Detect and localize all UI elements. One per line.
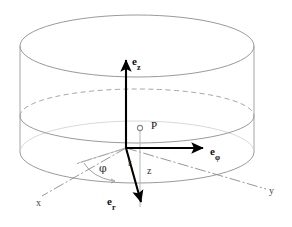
x-axis-line: [42, 148, 126, 196]
coordinate-axes: [42, 148, 266, 196]
y-axis-label: y: [269, 186, 274, 196]
e-z-label: ez: [132, 56, 140, 70]
figure-canvas: ez eφ er P r z φ x y: [0, 0, 292, 227]
point-p-marker: [137, 125, 142, 130]
e-phi-label: eφ: [210, 146, 220, 160]
e-r-subscript: r: [112, 203, 116, 212]
x-axis-label: x: [36, 198, 41, 208]
cylinder-diagram-svg: [0, 0, 292, 227]
e-r-label: er: [107, 196, 115, 210]
wedge-upper-edge: [78, 148, 126, 163]
unit-vectors: [126, 60, 203, 202]
e-z-subscript: z: [137, 63, 141, 72]
cylinder-mid-back-arc: [20, 89, 254, 116]
e-phi-subscript: φ: [215, 153, 220, 162]
radius-label: r: [128, 158, 131, 168]
point-p-label: P: [151, 120, 157, 131]
angle-phi-label: φ: [99, 163, 107, 174]
height-label: z: [147, 166, 151, 176]
